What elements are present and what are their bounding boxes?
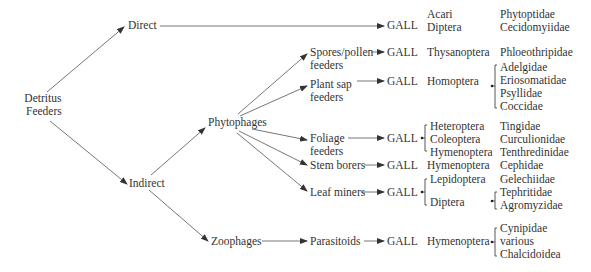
order-diptera: Diptera (427, 21, 461, 34)
family-cecidomyiidae: Cecidomyiidae (500, 21, 570, 34)
gall-foliage: GALL (387, 132, 418, 145)
family-cephidae: Cephidae (500, 159, 543, 172)
order-heteroptera: Heteroptera (430, 120, 484, 133)
foliage-line2: feeders (310, 145, 345, 158)
plantsap-line2: feeders (310, 91, 352, 104)
gall-direct: GALL (387, 19, 418, 32)
order-diptera-leaf: Diptera (430, 196, 464, 209)
node-plant-sap-feeders: Plant sap feeders (310, 78, 352, 104)
order-hymenoptera-parasitoids: Hymenoptera (427, 235, 490, 248)
plantsap-line1: Plant sap (310, 78, 352, 91)
family-eriosomatidae: Eriosomatidae (500, 74, 566, 87)
order-hymenoptera-foliage: Hymenoptera (430, 146, 493, 159)
gall-stem: GALL (387, 159, 418, 172)
node-direct: Direct (128, 19, 157, 32)
root-line1: Detritus (24, 92, 62, 105)
family-agromyzidae: Agromyzidae (500, 199, 563, 212)
order-hymenoptera-stem: Hymenoptera (427, 159, 490, 172)
family-various: various (500, 235, 534, 248)
order-thysanoptera: Thysanoptera (427, 46, 490, 59)
spores-line2: feeders (310, 59, 373, 72)
node-stem-borers: Stem borers (310, 159, 365, 172)
node-detritus-feeders: Detritus Feeders (24, 92, 62, 118)
node-spores-pollen-feeders: Spores/pollen feeders (310, 46, 373, 72)
order-lepidoptera: Lepidoptera (430, 173, 486, 186)
family-tenthredinidae: Tenthredinidae (500, 146, 569, 159)
order-coleoptera: Coleoptera (430, 133, 480, 146)
node-zoophages: Zoophages (211, 235, 261, 248)
foliage-line1: Foliage (310, 132, 345, 145)
order-acari: Acari (427, 8, 453, 21)
family-adelgidae: Adelgidae (500, 61, 547, 74)
family-chalcidoidea: Chalcidoidea (500, 248, 561, 261)
gall-leaf: GALL (387, 186, 418, 199)
node-foliage-feeders: Foliage feeders (310, 132, 345, 158)
family-phloeothripidae: Phloeothripidae (500, 46, 573, 59)
node-phytophages: Phytophages (208, 116, 267, 129)
family-tephritidae: Tephritidae (500, 186, 552, 199)
family-psyllidae: Psyllidae (500, 87, 542, 100)
gall-parasitoids: GALL (387, 235, 418, 248)
gall-plantsap: GALL (387, 75, 418, 88)
node-parasitoids: Parasitoids (310, 235, 360, 248)
gall-spores: GALL (387, 46, 418, 59)
spores-line1: Spores/pollen (310, 46, 373, 59)
family-curculionidae: Curculionidae (500, 133, 565, 146)
family-gelechiidae: Gelechiidae (500, 173, 555, 186)
family-tingidae: Tingidae (500, 120, 540, 133)
family-phytoptidae: Phytoptidae (500, 8, 555, 21)
family-cynipidae: Cynipidae (500, 222, 547, 235)
node-indirect: Indirect (129, 177, 165, 190)
order-homoptera: Homoptera (427, 75, 479, 88)
root-line2: Feeders (26, 105, 62, 118)
node-leaf-miners: Leaf miners (310, 186, 365, 199)
family-coccidae: Coccidae (500, 100, 543, 113)
